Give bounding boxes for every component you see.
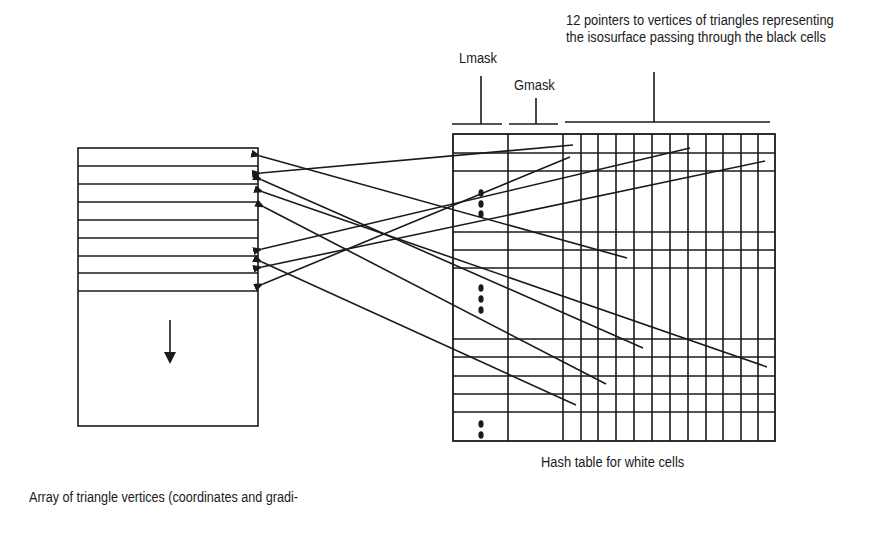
pointer-arrow [263, 157, 570, 284]
pointer-arrow [264, 207, 606, 384]
array-caption-line: Array of triangle vertices (coordinates … [29, 488, 306, 507]
column-group-brackets [452, 72, 770, 124]
ellipsis-dot-icon [478, 306, 483, 314]
ellipsis-dot-icon [478, 284, 483, 292]
pointer-arrow [263, 192, 767, 367]
ellipsis-dot-icon [478, 295, 483, 303]
array-growth-arrow-icon [164, 320, 176, 364]
hash-table-caption: Hash table for white cells [541, 454, 684, 471]
array-caption: Array of triangle vertices (coordinates … [29, 450, 306, 542]
hash-table-outline [453, 134, 775, 441]
pointer-arrow [262, 148, 690, 249]
pointer-arrows [260, 145, 767, 405]
ellipsis-dot-icon [478, 420, 483, 428]
pointers-label-line1: 12 pointers to vertices of triangles rep… [566, 12, 834, 29]
ellipsis-dot-icon [478, 431, 483, 439]
triangle-vertex-array [78, 148, 258, 426]
gmask-label: Gmask [514, 77, 555, 94]
pointers-label-line2: the isosurface passing through the black… [566, 29, 826, 46]
hash-table-white-cells [453, 134, 775, 441]
pointer-arrow [262, 262, 576, 405]
lmask-label: Lmask [459, 50, 497, 67]
array-box-outline [78, 148, 258, 426]
ellipsis-dot-icon [478, 200, 483, 208]
